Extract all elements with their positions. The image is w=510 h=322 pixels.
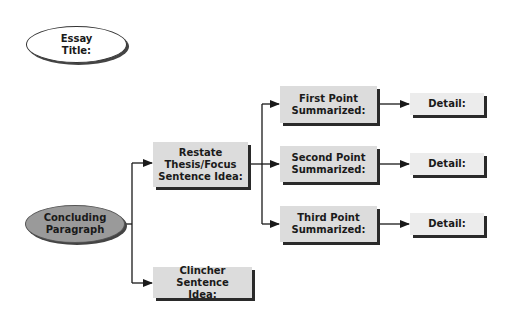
restate-line1: Restate bbox=[158, 147, 242, 159]
restate-thesis-node: Restate Thesis/Focus Sentence Idea: bbox=[153, 142, 248, 187]
detail-node-3: Detail: bbox=[410, 213, 484, 235]
clincher-sentence-node: Clincher Sentence Idea: bbox=[153, 267, 252, 298]
point1-line1: First Point bbox=[291, 93, 365, 105]
detail-node-2: Detail: bbox=[410, 153, 484, 175]
restate-line2: Thesis/Focus bbox=[158, 159, 242, 171]
point2-line1: Second Point bbox=[291, 152, 365, 164]
first-point-node: First Point Summarized: bbox=[280, 86, 377, 123]
essay-title-node: Essay Title: bbox=[26, 26, 127, 63]
detail-node-1: Detail: bbox=[410, 93, 484, 115]
essay-title-line1: Essay bbox=[61, 33, 93, 45]
concluding-paragraph-node: Concluding Paragraph bbox=[25, 205, 125, 243]
point3-line2: Summarized: bbox=[291, 224, 365, 236]
root-line1: Concluding bbox=[44, 212, 107, 224]
detail-1-label: Detail: bbox=[428, 98, 465, 110]
third-point-node: Third Point Summarized: bbox=[280, 206, 377, 242]
essay-title-line2: Title: bbox=[61, 45, 93, 57]
detail-3-label: Detail: bbox=[428, 218, 465, 230]
point1-line2: Summarized: bbox=[291, 105, 365, 117]
point3-line1: Third Point bbox=[291, 212, 365, 224]
clincher-line2: Idea: bbox=[153, 289, 252, 301]
second-point-node: Second Point Summarized: bbox=[280, 146, 377, 182]
clincher-line1: Clincher Sentence bbox=[153, 265, 252, 289]
detail-2-label: Detail: bbox=[428, 158, 465, 170]
restate-line3: Sentence Idea: bbox=[158, 171, 242, 183]
point2-line2: Summarized: bbox=[291, 164, 365, 176]
root-line2: Paragraph bbox=[44, 224, 107, 236]
